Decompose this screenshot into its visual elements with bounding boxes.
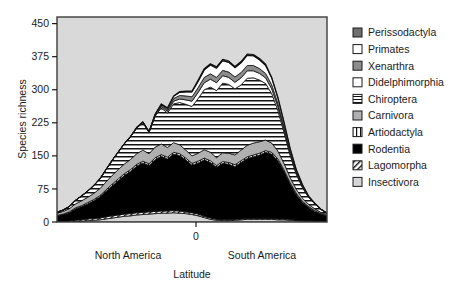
legend-label-artiodactyla: Artiodactyla <box>368 126 423 138</box>
y-tick-label-0: 0 <box>43 216 49 228</box>
y-tick-label-300: 300 <box>31 83 49 95</box>
y-tick-label-150: 150 <box>31 149 49 161</box>
legend-swatch-insectivora <box>353 177 362 186</box>
region-label-north-america: North America <box>95 249 162 261</box>
legend-label-insectivora: Insectivora <box>368 176 419 188</box>
legend-label-didelphimorphia: Didelphimorphia <box>368 76 444 88</box>
legend-swatch-chiroptera <box>353 94 362 103</box>
legend-swatch-rodentia <box>353 144 362 153</box>
legend-label-xenarthra: Xenarthra <box>368 60 414 72</box>
legend-label-lagomorpha: Lagomorpha <box>368 159 427 171</box>
region-label-south-america: South America <box>228 249 296 261</box>
y-tick-label-450: 450 <box>31 17 49 29</box>
species-richness-stacked-area-chart: 075150225300375450 0 North America South… <box>0 0 457 287</box>
legend-label-primates: Primates <box>368 43 409 55</box>
legend-swatch-primates <box>353 45 362 54</box>
legend-label-perissodactyla: Perissodactyla <box>368 26 436 38</box>
x-tick-label-zero: 0 <box>193 230 199 242</box>
legend-swatch-lagomorpha <box>353 161 362 170</box>
y-axis-title: Species richness <box>16 79 28 158</box>
y-tick-label-375: 375 <box>31 50 49 62</box>
y-tick-label-75: 75 <box>37 183 49 195</box>
y-tick-label-225: 225 <box>31 116 49 128</box>
legend-swatch-didelphimorphia <box>353 78 362 87</box>
legend-swatch-artiodactyla <box>353 128 362 137</box>
legend-swatch-xenarthra <box>353 61 362 70</box>
legend-label-chiroptera: Chiroptera <box>368 93 417 105</box>
x-axis-title: Latitude <box>173 268 211 280</box>
legend-label-carnivora: Carnivora <box>368 109 414 121</box>
legend-swatch-carnivora <box>353 111 362 120</box>
legend-label-rodentia: Rodentia <box>368 143 410 155</box>
legend-swatch-perissodactyla <box>353 28 362 37</box>
